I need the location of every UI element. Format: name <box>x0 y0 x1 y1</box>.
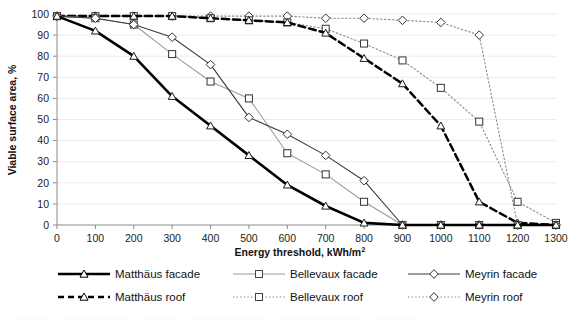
svg-text:Viable surface area, %: Viable surface area, % <box>6 64 18 175</box>
svg-text:0: 0 <box>54 232 60 244</box>
line-chart-svg: 1009080706050403020100 01002003004005006… <box>0 0 580 260</box>
legend-item-bellevaux-roof[interactable]: Bellevaux roof <box>231 290 406 304</box>
cropped-caption-fragment <box>18 315 418 321</box>
svg-text:Energy threshold, kWh/m2: Energy threshold, kWh/m2 <box>235 245 366 258</box>
legend-label: Meyrin roof <box>462 291 523 303</box>
svg-text:80: 80 <box>37 50 49 62</box>
legend-key-solid-thick-triangle-icon <box>56 267 112 281</box>
legend-key-dotted-diamond-icon <box>406 290 462 304</box>
svg-text:600: 600 <box>279 232 297 244</box>
x-axis-title: Energy threshold, kWh/m2 <box>235 245 366 258</box>
y-axis-ticks <box>53 14 57 225</box>
svg-text:100: 100 <box>31 8 49 20</box>
svg-text:400: 400 <box>202 232 220 244</box>
svg-text:100: 100 <box>87 232 105 244</box>
legend-label: Bellevaux roof <box>287 291 363 303</box>
legend-label: Bellevaux facade <box>287 268 378 280</box>
chart-legend: Matthäus facade Bellevaux facade Meyrin … <box>0 262 580 312</box>
svg-text:20: 20 <box>37 177 49 189</box>
legend-item-matthaus-roof[interactable]: Matthäus roof <box>56 290 231 304</box>
legend-item-matthaus-facade[interactable]: Matthäus facade <box>56 267 231 281</box>
svg-text:1300: 1300 <box>544 232 568 244</box>
y-tick-labels: 1009080706050403020100 <box>31 8 49 231</box>
legend-item-bellevaux-facade[interactable]: Bellevaux facade <box>231 267 406 281</box>
series-matth-us-facade <box>53 12 560 228</box>
legend-key-solid-thin-diamond-icon <box>406 267 462 281</box>
legend-label: Matthäus roof <box>112 291 185 303</box>
legend-row-2: Matthäus roof Bellevaux roof Meyrin roof <box>0 285 580 308</box>
chart-figure: 1009080706050403020100 01002003004005006… <box>0 0 580 323</box>
svg-text:50: 50 <box>37 113 49 125</box>
gridlines <box>57 14 556 204</box>
legend-key-solid-gray-square-icon <box>231 267 287 281</box>
data-series-layer <box>53 12 561 229</box>
svg-text:30: 30 <box>37 155 49 167</box>
svg-text:700: 700 <box>317 232 335 244</box>
legend-label: Matthäus facade <box>112 268 200 280</box>
svg-text:40: 40 <box>37 134 49 146</box>
legend-item-meyrin-roof[interactable]: Meyrin roof <box>406 290 571 304</box>
svg-text:1000: 1000 <box>429 232 453 244</box>
svg-text:60: 60 <box>37 92 49 104</box>
svg-text:0: 0 <box>43 219 49 231</box>
plot-area: 1009080706050403020100 01002003004005006… <box>0 0 580 260</box>
svg-text:1100: 1100 <box>468 232 491 244</box>
legend-row-1: Matthäus facade Bellevaux facade Meyrin … <box>0 262 580 285</box>
x-tick-labels: 0100200300400500600700800900100011001200… <box>54 232 568 244</box>
svg-text:900: 900 <box>394 232 412 244</box>
svg-text:10: 10 <box>37 198 49 210</box>
legend-label: Meyrin facade <box>462 268 537 280</box>
svg-text:90: 90 <box>37 29 49 41</box>
svg-text:200: 200 <box>125 232 143 244</box>
svg-text:70: 70 <box>37 71 49 83</box>
legend-key-dashed-triangle-icon <box>56 290 112 304</box>
svg-text:800: 800 <box>355 232 373 244</box>
y-axis-title: Viable surface area, % <box>6 64 18 175</box>
svg-text:500: 500 <box>240 232 258 244</box>
legend-item-meyrin-facade[interactable]: Meyrin facade <box>406 267 571 281</box>
svg-text:1200: 1200 <box>506 232 530 244</box>
svg-text:300: 300 <box>163 232 181 244</box>
legend-key-dotted-square-icon <box>231 290 287 304</box>
